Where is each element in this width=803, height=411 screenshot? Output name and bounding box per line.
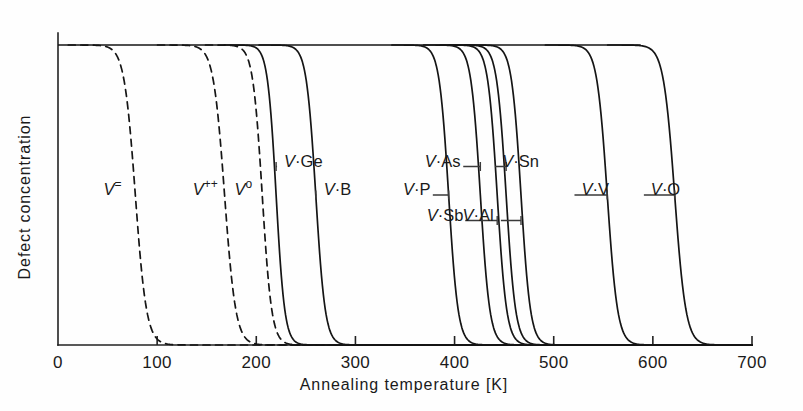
x-axis-tick-label: 300 — [341, 353, 371, 372]
annealing-curves-chart: 0100200300400500600700 V=V++VoV·GeV·BV·P… — [0, 0, 803, 411]
series-labels-group: V=V++VoV·GeV·BV·PV·AsV·SbV·SnV·AlV·VV·O — [104, 152, 681, 224]
series-label-v-sb: V·Sb — [427, 206, 464, 224]
x-axis-title: Annealing temperature [K] — [300, 376, 508, 393]
x-axis-tick-label: 600 — [638, 353, 668, 372]
series-label-v0: Vo — [234, 177, 252, 198]
leader-line-v-al — [501, 216, 521, 225]
x-axis-ticks — [157, 336, 752, 345]
x-axis-tick-labels: 0100200300400500600700 — [53, 353, 767, 372]
x-axis-tick-label: 700 — [737, 353, 767, 372]
series-label-v-p: V·P — [403, 180, 431, 198]
series-label-v: V++ — [193, 177, 218, 198]
y-axis-title: Defect concentration — [16, 115, 33, 280]
x-axis-tick-label: 0 — [53, 353, 63, 372]
x-axis-tick-label: 400 — [440, 353, 470, 372]
x-axis-tick-label: 100 — [142, 353, 172, 372]
axes-group: 0100200300400500600700 — [53, 33, 767, 372]
leader-line-v-ge — [276, 162, 277, 171]
series-label-v-ge: V·Ge — [284, 152, 323, 170]
series-label-v-al: V·Al — [463, 206, 494, 224]
defect-annealing-figure: 0100200300400500600700 V=V++VoV·GeV·BV·P… — [0, 0, 803, 411]
leader-line-v-p — [433, 191, 449, 200]
series-label-v-sn: V·Sn — [502, 152, 539, 170]
series-label-v: V= — [104, 177, 122, 198]
x-axis-tick-label: 200 — [241, 353, 271, 372]
series-label-v-v: V·V — [581, 180, 609, 198]
series-label-v-o: V·O — [651, 180, 681, 198]
series-label-v-as: V·As — [425, 152, 461, 170]
series-label-v-b: V·B — [324, 180, 352, 198]
x-axis-tick-label: 500 — [539, 353, 569, 372]
